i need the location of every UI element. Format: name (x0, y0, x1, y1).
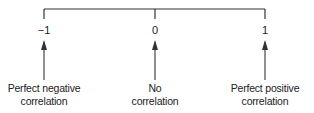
tick-label-positive-one: 1 (262, 24, 268, 36)
caption-line: Perfect positive (231, 82, 300, 95)
caption-perfect-negative: Perfect negative correlation (8, 82, 81, 108)
tick-label-negative-one: −1 (38, 24, 51, 36)
caption-no-correlation: No correlation (132, 82, 179, 108)
caption-line: Perfect negative (8, 82, 81, 95)
arrows (41, 40, 268, 80)
scale-bracket (44, 9, 265, 19)
caption-line: No (132, 82, 179, 95)
caption-perfect-positive: Perfect positive correlation (231, 82, 300, 108)
tick-label-zero: 0 (152, 24, 158, 36)
caption-line: correlation (8, 95, 81, 108)
caption-line: correlation (231, 95, 300, 108)
caption-line: correlation (132, 95, 179, 108)
